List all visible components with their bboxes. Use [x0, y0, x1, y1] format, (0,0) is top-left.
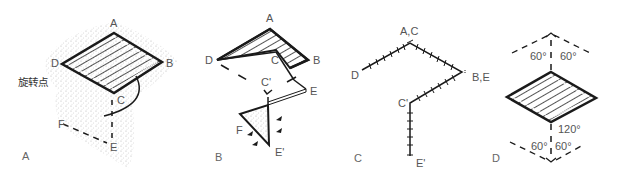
- point-label-c-prime: C': [398, 97, 408, 109]
- point-label-f: F: [58, 118, 65, 130]
- point-label-b: B: [166, 57, 173, 69]
- panel-d: 60° 60° 120° 60° 60° D: [492, 33, 596, 164]
- panel-a: A B C D E F 旋转点 A: [18, 17, 178, 168]
- diagram-canvas: A B C D E F 旋转点 A A: [0, 0, 619, 180]
- point-label-e-prime: E': [275, 146, 284, 158]
- point-label-f: F: [236, 124, 243, 136]
- panel-b: A B C D E C' E' F B: [205, 12, 320, 163]
- point-label-e-prime: E': [416, 157, 425, 169]
- point-label-d: D: [351, 69, 359, 81]
- point-label-be: B,E: [472, 71, 490, 83]
- panel-label-a: A: [22, 150, 30, 162]
- panel-c: [362, 40, 465, 156]
- triangle-fce: [240, 105, 269, 145]
- point-label-d: D: [51, 57, 59, 69]
- angle-label-bottom-left: 60°: [531, 140, 548, 152]
- point-label-ac: A,C: [400, 25, 418, 37]
- panel-label-b: B: [215, 151, 222, 163]
- rotation-point-label: 旋转点: [18, 76, 48, 88]
- point-label-a: A: [266, 12, 274, 24]
- point-label-a: A: [110, 17, 118, 29]
- rhombus: [507, 72, 596, 122]
- angle-label-bottom-center: 120°: [558, 123, 581, 135]
- point-label-e: E: [310, 85, 317, 97]
- point-label-c-prime: C': [261, 76, 271, 88]
- dashed-line-dc: [221, 65, 254, 84]
- angle-label-bottom-right: 60°: [555, 140, 572, 152]
- angle-label-top-left: 60°: [530, 50, 547, 62]
- folded-edge-path: [362, 43, 462, 156]
- panel-label-d: D: [492, 152, 500, 164]
- angle-label-top-right: 60°: [560, 50, 577, 62]
- point-label-b: B: [313, 54, 320, 66]
- point-label-c: C: [117, 94, 125, 106]
- point-label-e: E: [110, 141, 117, 153]
- panel-label-c: C: [354, 152, 362, 164]
- point-label-c: C: [271, 54, 279, 66]
- point-label-d: D: [205, 54, 213, 66]
